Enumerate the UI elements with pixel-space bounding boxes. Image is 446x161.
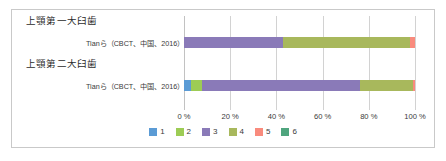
legend-swatch-icon: [255, 128, 263, 136]
series-label-text: Tianら（CBCT、中国、2016）: [86, 82, 184, 91]
chart-frame: 上顎第一大臼歯 Tianら（CBCT、中国、2016）2 上顎第二大臼歯 Tia…: [11, 9, 435, 148]
bar-segment-4: [283, 37, 410, 48]
group-title-upper-second-molar: 上顎第二大臼歯: [26, 58, 97, 70]
legend-item-6[interactable]: 6: [281, 127, 296, 136]
bar-segment-1: [184, 80, 191, 91]
legend-label: 4: [240, 127, 244, 136]
x-tick-label: 40 %: [268, 111, 285, 122]
x-tick-label: 80 %: [360, 111, 377, 122]
legend-swatch-icon: [229, 128, 237, 136]
legend-item-4[interactable]: 4: [229, 127, 244, 136]
gridline-20: [230, 16, 231, 110]
x-tick-label: 20 %: [222, 111, 239, 122]
legend-item-2[interactable]: 2: [176, 127, 191, 136]
legend-swatch-icon: [281, 128, 289, 136]
legend-label: 1: [160, 127, 164, 136]
x-tick-label: 60 %: [314, 111, 331, 122]
legend-item-5[interactable]: 5: [255, 127, 270, 136]
stacked-bar-row-2: [184, 80, 415, 91]
x-tick-label: 100 %: [404, 111, 426, 122]
gridline-100: [415, 16, 416, 110]
gridline-80: [369, 16, 370, 110]
legend-swatch-icon: [149, 128, 157, 136]
gridline-40: [276, 16, 277, 110]
bar-segment-4: [360, 80, 413, 91]
chart-legend: 123456: [12, 127, 434, 136]
legend-label: 3: [213, 127, 217, 136]
plot-area: [184, 16, 415, 110]
stacked-bar-row-1: [184, 37, 415, 48]
legend-label: 2: [187, 127, 191, 136]
bar-segment-3: [184, 37, 283, 48]
legend-swatch-icon: [202, 128, 210, 136]
bar-segment-5: [410, 37, 415, 48]
group-title-upper-first-molar: 上顎第一大臼歯: [26, 15, 97, 27]
x-tick-label: 0 %: [177, 111, 190, 122]
gridline-60: [323, 16, 324, 110]
chart-screenshot: 上顎第一大臼歯 Tianら（CBCT、中国、2016）2 上顎第二大臼歯 Tia…: [0, 0, 446, 161]
legend-swatch-icon: [176, 128, 184, 136]
x-axis-tick-labels: 0 %20 %40 %60 %80 %100 %: [184, 111, 415, 123]
bar-segment-5: [413, 80, 415, 91]
gridline-0: [184, 16, 185, 110]
legend-label: 5: [266, 127, 270, 136]
series-label-row-1: Tianら（CBCT、中国、2016）2: [86, 36, 187, 49]
legend-label: 6: [292, 127, 296, 136]
bar-segment-3: [202, 80, 359, 91]
series-label-row-2: Tianら（CBCT、中国、2016）2: [86, 79, 187, 92]
legend-item-1[interactable]: 1: [149, 127, 164, 136]
bar-segment-2: [191, 80, 203, 91]
legend-item-3[interactable]: 3: [202, 127, 217, 136]
series-label-text: Tianら（CBCT、中国、2016）: [86, 39, 184, 48]
